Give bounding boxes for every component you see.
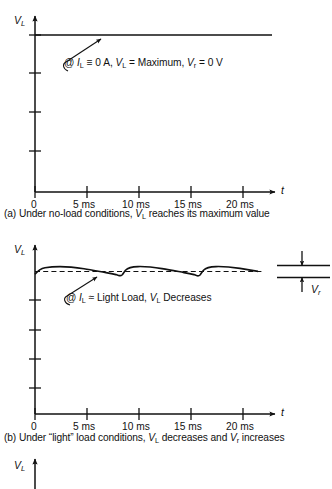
panel-a-y-axis-label: VL [14,14,25,28]
panel-a-annotation: @ IL ≡ 0 A, VL = Maximum, Vr = 0 V [64,57,223,70]
figure-root: VL t @ IL ≡ 0 A, VL = Maximum, Vr = 0 V … [0,0,332,489]
panel-b-xtick-label: 0 [31,421,37,432]
panel-a-caption: (a) Under no-load conditions, VL reaches… [4,208,270,221]
panel-a-axes [29,16,275,198]
panel-b-y-axis-label: VL [14,243,25,257]
panel-b-caption: (b) Under “light” load conditions, VL de… [4,432,284,445]
panel-b-x-axis-label: t [281,406,284,418]
panel-b-xtick-label: 15 ms [174,421,202,432]
panel-b-xtick-label: 20 ms [226,421,254,432]
panel-a-x-axis-label: t [281,184,284,196]
panel-b-annotation: @ IL ≈ Light Load, VL Decreases [66,292,211,305]
panel-c-y-axis-label: VL [14,459,25,473]
panel-b-xtick-label: 5 ms [73,421,95,432]
ripple-span-marker [277,251,330,292]
panel-b-xtick-label: 10 ms [122,421,150,432]
ripple-span-label: Vr [311,283,321,297]
